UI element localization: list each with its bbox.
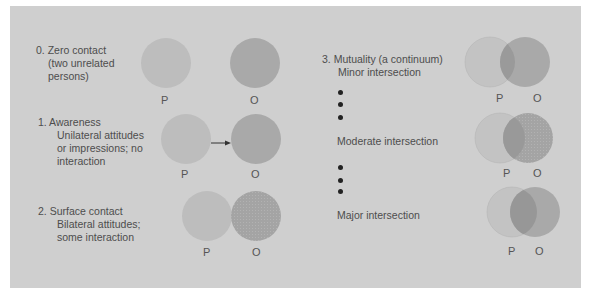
o-label: O [250,94,259,106]
person-o-circle [230,38,280,88]
p-label: P [508,245,515,257]
person-p-circle [141,38,191,88]
p-label: P [161,94,168,106]
o-label: O [533,92,542,104]
o-label: O [535,245,544,257]
p-label: P [503,167,510,179]
person-o-circle [231,191,281,241]
person-o-circle [231,114,281,164]
arrow-icon [211,141,231,146]
o-label: O [252,246,261,258]
o-label: O [533,167,542,179]
o-label: O [251,168,260,180]
person-p-circle [161,114,211,164]
p-label: P [181,168,188,180]
p-label: P [203,246,210,258]
person-p-circle [182,191,232,241]
circles-layer [0,0,590,299]
p-label: P [496,92,503,104]
